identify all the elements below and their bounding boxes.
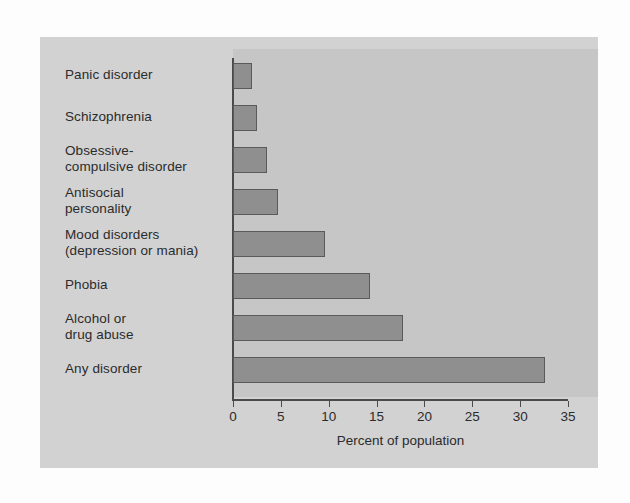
x-axis-tick-label: 35	[548, 409, 588, 424]
x-axis-line	[232, 399, 568, 401]
x-axis-tick	[281, 401, 282, 407]
x-axis-tick	[520, 401, 521, 407]
bar	[233, 231, 325, 257]
figure: Panic disorderSchizophreniaObsessive- co…	[0, 0, 630, 503]
x-axis-tick-label: 0	[213, 409, 253, 424]
category-label: Schizophrenia	[65, 109, 225, 125]
category-label: Panic disorder	[65, 67, 225, 83]
x-axis-tick-label: 25	[452, 409, 492, 424]
bar	[233, 357, 545, 383]
x-axis-tick	[233, 401, 234, 407]
x-axis-tick-label: 30	[500, 409, 540, 424]
bar	[233, 105, 257, 131]
bar	[233, 147, 267, 173]
bars-layer	[233, 60, 573, 398]
category-label: Phobia	[65, 277, 225, 293]
x-axis-tick-label: 10	[309, 409, 349, 424]
x-axis-tick	[377, 401, 378, 407]
x-axis-tick-label: 5	[261, 409, 301, 424]
category-label: Mood disorders (depression or mania)	[65, 227, 225, 259]
x-axis-tick	[329, 401, 330, 407]
bar	[233, 273, 370, 299]
x-axis-tick	[568, 401, 569, 407]
x-axis-tick-label: 20	[404, 409, 444, 424]
bar-chart: Panic disorderSchizophreniaObsessive- co…	[0, 0, 630, 503]
x-axis-tick	[472, 401, 473, 407]
bar	[233, 63, 252, 89]
bar	[233, 315, 403, 341]
category-label: Obsessive- compulsive disorder	[65, 143, 225, 175]
x-axis-tick	[424, 401, 425, 407]
bar	[233, 189, 278, 215]
category-label: Antisocial personality	[65, 185, 225, 217]
x-axis-tick-label: 15	[357, 409, 397, 424]
category-label: Alcohol or drug abuse	[65, 311, 225, 343]
x-axis-title: Percent of population	[233, 433, 568, 448]
category-label: Any disorder	[65, 361, 225, 377]
